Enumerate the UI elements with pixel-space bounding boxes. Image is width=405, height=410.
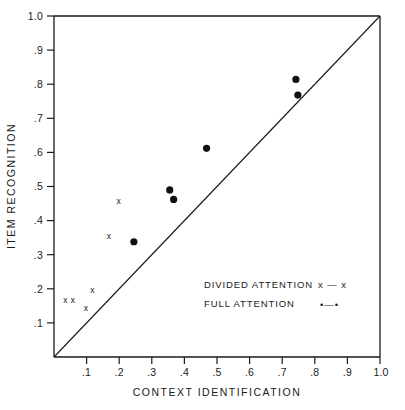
- legend: DIVIDED ATTENTION x — x FULL ATTENTION •…: [204, 279, 347, 310]
- x-tick-label-0.8: .8: [310, 366, 319, 378]
- y-tick-label-0.4: .4: [34, 214, 43, 226]
- x-tick-label-0.3: .3: [147, 366, 156, 378]
- y-axis-tick-labels: 1.0 .9 .8 .7 .6 .5 .4 .3 .2 .1: [28, 10, 43, 329]
- x-axis-tick-labels: .1 .2 .3 .4 .5 .6 .7 .8 .9 1.0: [82, 366, 389, 378]
- data-point-divided-attention: x: [107, 231, 112, 241]
- data-point-divided-attention: x: [116, 196, 121, 206]
- y-tick-label-0.9: .9: [34, 44, 43, 56]
- x-tick-label-0.7: .7: [278, 366, 287, 378]
- y-axis-ticks: [47, 16, 54, 323]
- legend-marker-full-attention: •—•: [320, 299, 339, 310]
- plot-canvas: 1.0 .9 .8 .7 .6 .5 .4 .3 .2 .1 .1: [0, 0, 405, 410]
- data-point-full-attention: [292, 76, 299, 83]
- x-tick-label-0.1: .1: [82, 366, 91, 378]
- x-tick-label-0.6: .6: [245, 366, 254, 378]
- x-tick-label-1.0: 1.0: [373, 366, 388, 378]
- legend-marker-divided-attention: x — x: [318, 279, 347, 290]
- data-point-divided-attention: x: [71, 295, 76, 305]
- legend-label-divided-attention: DIVIDED ATTENTION: [204, 279, 313, 290]
- y-tick-label-1.0: 1.0: [28, 10, 43, 22]
- data-point-full-attention: [130, 238, 137, 245]
- x-axis-ticks: [87, 357, 380, 364]
- y-tick-label-0.6: .6: [34, 146, 43, 158]
- y-tick-label-0.1: .1: [34, 317, 43, 329]
- y-tick-label-0.7: .7: [34, 112, 43, 124]
- x-tick-label-0.5: .5: [212, 366, 221, 378]
- x-tick-label-0.9: .9: [343, 366, 352, 378]
- y-tick-label-0.5: .5: [34, 180, 43, 192]
- y-tick-label-0.2: .2: [34, 283, 43, 295]
- data-point-divided-attention: x: [84, 303, 89, 313]
- data-point-divided-attention: x: [63, 295, 68, 305]
- data-point-divided-attention: x: [90, 285, 95, 295]
- data-point-full-attention: [203, 145, 210, 152]
- series-full-attention: [130, 76, 301, 246]
- x-tick-label-0.2: .2: [115, 366, 124, 378]
- legend-entry-divided-attention: DIVIDED ATTENTION x — x: [204, 279, 347, 290]
- data-point-full-attention: [170, 196, 177, 203]
- data-point-full-attention: [166, 186, 173, 193]
- legend-label-full-attention: FULL ATTENTION: [204, 298, 295, 309]
- y-tick-label-0.3: .3: [34, 249, 43, 261]
- y-axis-title: ITEM RECOGNITION: [5, 123, 17, 249]
- x-axis-title: CONTEXT IDENTIFICATION: [133, 386, 302, 398]
- x-tick-label-0.4: .4: [180, 366, 189, 378]
- scatter-plot-figure: 1.0 .9 .8 .7 .6 .5 .4 .3 .2 .1 .1: [0, 0, 405, 410]
- legend-entry-full-attention: FULL ATTENTION •—•: [204, 298, 339, 310]
- data-point-full-attention: [294, 92, 301, 99]
- y-tick-label-0.8: .8: [34, 78, 43, 90]
